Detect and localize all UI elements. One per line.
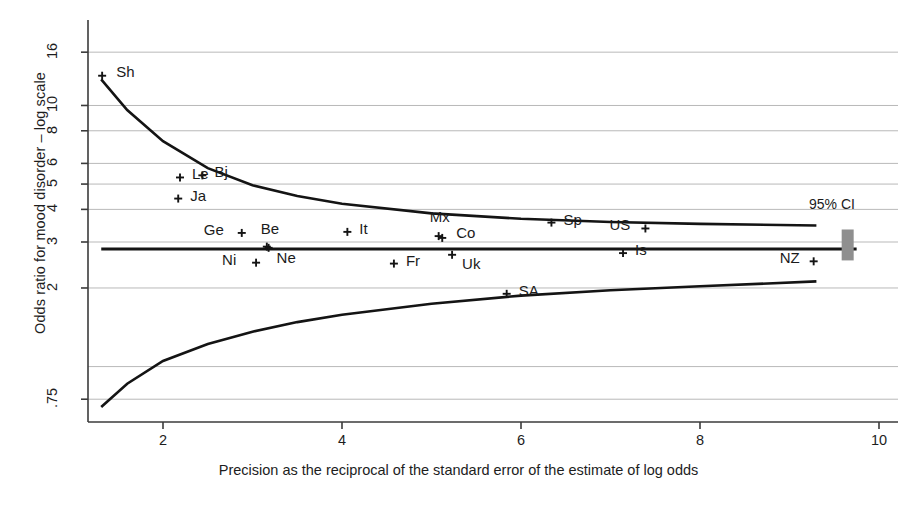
point-label-bj: Bj <box>214 163 227 180</box>
data-point-marker[interactable] <box>98 72 106 80</box>
x-tick-label: 8 <box>680 432 720 448</box>
x-tick-label: 10 <box>859 432 899 448</box>
point-label-sp: Sp <box>563 211 581 228</box>
point-label-uk: Uk <box>462 255 480 272</box>
y-tick-label: 16 <box>44 28 60 74</box>
point-label-ne: Ne <box>277 249 296 266</box>
point-label-it: It <box>359 220 367 237</box>
data-point-marker[interactable] <box>448 251 456 259</box>
x-tick-label: 2 <box>143 432 183 448</box>
point-label-is: Is <box>635 241 647 258</box>
data-point-marker[interactable] <box>252 259 260 267</box>
point-label-us: US <box>609 216 630 233</box>
x-tick-label: 4 <box>322 432 362 448</box>
data-point-marker[interactable] <box>265 244 273 252</box>
data-point-marker[interactable] <box>343 228 351 236</box>
ci-annotation-label: 95% CI <box>809 196 855 212</box>
funnel-upper-ci-curve <box>101 79 816 225</box>
ci-band-bar <box>842 229 854 260</box>
point-label-fr: Fr <box>406 252 420 269</box>
point-label-ja: Ja <box>190 187 206 204</box>
point-label-ni: Ni <box>222 251 236 268</box>
point-label-ge: Ge <box>204 221 224 238</box>
point-label-be: Be <box>261 220 279 237</box>
point-label-co: Co <box>456 224 475 241</box>
y-tick-label: 3 <box>44 218 60 264</box>
data-point-marker[interactable] <box>641 224 649 232</box>
point-label-sh: Sh <box>116 63 134 80</box>
point-label-sa: SA <box>519 282 539 299</box>
data-point-marker[interactable] <box>174 195 182 203</box>
x-tick-label: 6 <box>501 432 541 448</box>
point-label-mx: Mx <box>430 208 450 225</box>
data-point-marker[interactable] <box>176 173 184 181</box>
data-point-marker[interactable] <box>238 229 246 237</box>
point-label-nz: NZ <box>780 249 800 266</box>
x-axis-title: Precision as the reciprocal of the stand… <box>0 462 917 478</box>
y-tick-label: 2 <box>44 264 60 310</box>
data-point-marker[interactable] <box>810 257 818 265</box>
funnel-lower-ci-curve <box>101 281 816 407</box>
funnel-plot-figure: Odds ratio for mood disorder – log scale… <box>0 0 917 513</box>
point-label-le: Le <box>192 165 209 182</box>
data-point-marker[interactable] <box>390 260 398 268</box>
y-tick-label: .75 <box>44 375 60 421</box>
